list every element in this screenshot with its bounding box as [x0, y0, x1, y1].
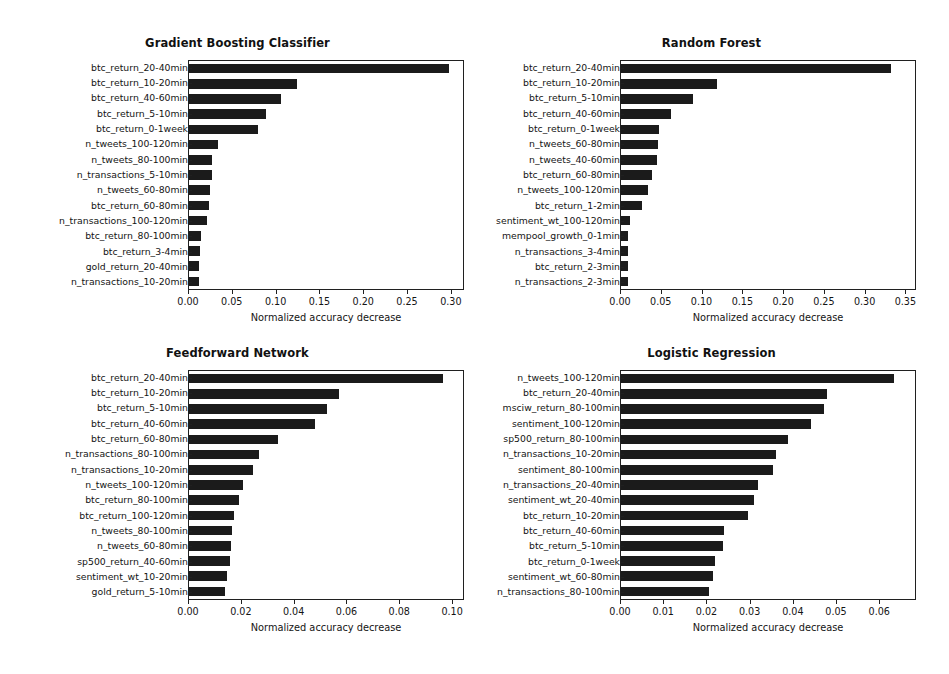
y-tick-label: gold_return_20-40min — [86, 262, 188, 271]
y-tick-label: n_transactions_10-20min — [71, 465, 188, 474]
y-tick-label: btc_return_5-10min — [97, 109, 188, 118]
x-tick-label: 0.20 — [353, 297, 374, 307]
y-tick-label: btc_return_40-60min — [91, 94, 188, 103]
x-tick-label: 0.05 — [650, 297, 671, 307]
x-tick-mark — [750, 600, 751, 604]
x-tick-label: 0.06 — [336, 607, 357, 617]
y-tick-label: btc_return_5-10min — [529, 94, 620, 103]
panel-feedforward-network: Feedforward Network btc_return_20-40minb… — [0, 346, 475, 656]
y-tick-label: btc_return_3-4min — [103, 247, 188, 256]
plot-area-wrapper: n_tweets_100-120minbtc_return_20-40minms… — [620, 370, 916, 600]
y-tick-label: sentiment_100-120min — [512, 419, 620, 428]
x-tick-mark — [276, 290, 277, 294]
y-tick-label: n_transactions_3-4min — [515, 247, 620, 256]
x-tick-mark — [294, 600, 295, 604]
y-tick-label: btc_return_10-20min — [523, 511, 620, 520]
x-tick-mark — [663, 600, 664, 604]
x-tick-label: 0.30 — [440, 297, 461, 307]
x-tick-label: 0.35 — [895, 297, 916, 307]
y-tick-label: n_transactions_80-100min — [497, 588, 620, 597]
x-tick-mark — [241, 600, 242, 604]
x-tick-label: 0.00 — [609, 297, 630, 307]
y-tick-label: n_tweets_60-80min — [529, 140, 620, 149]
x-tick-mark — [407, 290, 408, 294]
x-axis-title: Normalized accuracy decrease — [188, 312, 464, 323]
x-tick-label: 0.08 — [389, 607, 410, 617]
y-tick-label: n_transactions_100-120min — [59, 216, 188, 225]
y-tick-label: btc_return_40-60min — [523, 526, 620, 535]
y-tick-label: sentiment_wt_100-120min — [496, 216, 620, 225]
y-axis-labels-3: n_tweets_100-120minbtc_return_20-40minms… — [468, 370, 620, 600]
y-tick-label: n_tweets_60-80min — [97, 186, 188, 195]
panel-title: Logistic Regression — [474, 346, 949, 360]
y-tick-label: btc_return_10-20min — [91, 388, 188, 397]
x-tick-mark — [824, 290, 825, 294]
x-tick-mark — [706, 600, 707, 604]
x-tick-label: 0.15 — [732, 297, 753, 307]
x-tick-label: 0.20 — [772, 297, 793, 307]
y-tick-label: n_transactions_20-40min — [503, 480, 620, 489]
y-tick-label: btc_return_80-100min — [85, 496, 188, 505]
y-tick-label: sentiment_80-100min — [518, 465, 620, 474]
x-tick-mark — [346, 600, 347, 604]
x-tick-label: 0.01 — [653, 607, 674, 617]
y-tick-label: msciw_return_80-100min — [503, 404, 620, 413]
x-tick-mark — [399, 600, 400, 604]
x-tick-label: 0.25 — [813, 297, 834, 307]
y-tick-label: btc_return_10-20min — [91, 78, 188, 87]
panel-title: Random Forest — [474, 36, 949, 50]
x-tick-label: 0.03 — [739, 607, 760, 617]
x-tick-label: 0.10 — [265, 297, 286, 307]
x-tick-mark — [783, 290, 784, 294]
x-tick-label: 0.10 — [691, 297, 712, 307]
x-axis-2: 0.000.020.040.060.080.10 — [188, 370, 464, 600]
y-tick-label: btc_return_100-120min — [79, 511, 188, 520]
x-tick-label: 0.25 — [396, 297, 417, 307]
y-tick-label: n_tweets_80-100min — [91, 155, 188, 164]
x-axis-3: 0.000.010.020.030.040.050.06 — [620, 370, 916, 600]
y-tick-label: n_tweets_60-80min — [97, 542, 188, 551]
y-tick-label: n_transactions_10-20min — [503, 450, 620, 459]
y-tick-label: n_tweets_40-60min — [529, 155, 620, 164]
x-tick-mark — [452, 600, 453, 604]
y-axis-labels-2: btc_return_20-40minbtc_return_10-20minbt… — [0, 370, 188, 600]
y-tick-label: n_transactions_5-10min — [77, 170, 188, 179]
y-axis-labels-1: btc_return_20-40minbtc_return_10-20minbt… — [468, 60, 620, 290]
panel-title: Feedforward Network — [0, 346, 475, 360]
x-tick-mark — [363, 290, 364, 294]
x-tick-mark — [620, 290, 621, 294]
plot-area-wrapper: btc_return_20-40minbtc_return_10-20minbt… — [188, 60, 464, 290]
y-tick-label: sentiment_wt_20-40min — [508, 496, 620, 505]
x-tick-mark — [836, 600, 837, 604]
panel-gradient-boosting: Gradient Boosting Classifier btc_return_… — [0, 36, 475, 336]
x-tick-label: 0.05 — [221, 297, 242, 307]
x-tick-label: 0.04 — [782, 607, 803, 617]
x-tick-label: 0.02 — [696, 607, 717, 617]
y-tick-label: btc_return_1-2min — [535, 201, 620, 210]
y-tick-label: btc_return_20-40min — [91, 373, 188, 382]
x-axis-title: Normalized accuracy decrease — [620, 622, 916, 633]
x-tick-label: 0.02 — [230, 607, 251, 617]
x-tick-mark — [232, 290, 233, 294]
x-tick-label: 0.00 — [177, 297, 198, 307]
x-tick-mark — [742, 290, 743, 294]
y-tick-label: n_transactions_2-3min — [515, 278, 620, 287]
x-tick-label: 0.10 — [441, 607, 462, 617]
y-tick-label: sp500_return_40-60min — [77, 557, 188, 566]
x-tick-mark — [702, 290, 703, 294]
y-tick-label: btc_return_2-3min — [535, 262, 620, 271]
x-tick-mark — [188, 600, 189, 604]
panel-logistic-regression: Logistic Regression n_tweets_100-120minb… — [474, 346, 949, 656]
y-tick-label: btc_return_0-1week — [528, 557, 620, 566]
y-tick-label: btc_return_5-10min — [529, 542, 620, 551]
y-tick-label: n_tweets_100-120min — [85, 140, 188, 149]
x-tick-mark — [188, 290, 189, 294]
y-tick-label: btc_return_0-1week — [96, 124, 188, 133]
x-tick-label: 0.00 — [177, 607, 198, 617]
y-tick-label: btc_return_60-80min — [523, 170, 620, 179]
x-tick-mark — [319, 290, 320, 294]
x-tick-label: 0.06 — [869, 607, 890, 617]
y-tick-label: btc_return_60-80min — [91, 434, 188, 443]
y-tick-label: sentiment_wt_60-80min — [508, 572, 620, 581]
x-tick-mark — [620, 600, 621, 604]
